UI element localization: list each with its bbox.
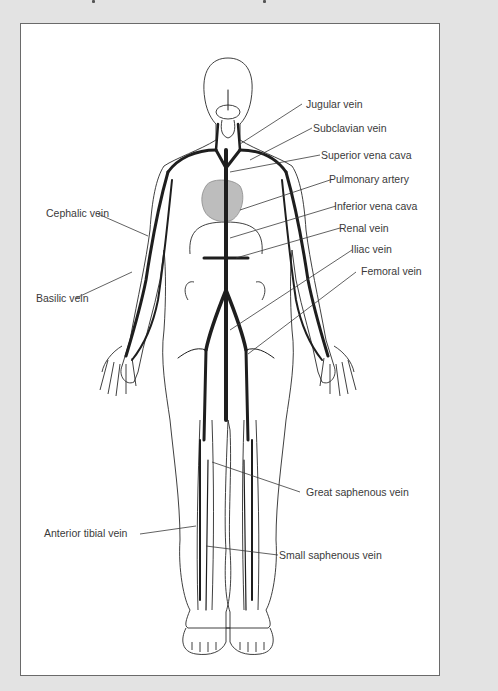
heart-shape xyxy=(202,180,243,222)
label-renal-vein: Renal vein xyxy=(339,222,389,234)
label-great-saphenous-vein: Great saphenous vein xyxy=(306,486,409,498)
label-femoral-vein: Femoral vein xyxy=(361,265,422,277)
label-anterior-tibial-vein: Anterior tibial vein xyxy=(44,527,127,539)
label-subclavian-vein: Subclavian vein xyxy=(313,122,387,134)
label-inferior-vena-cava: Inferior vena cava xyxy=(334,200,417,212)
label-iliac-vein: Iliac vein xyxy=(351,243,392,255)
label-jugular-vein: Jugular vein xyxy=(306,98,363,110)
label-pulmonary-artery: Pulmonary artery xyxy=(329,173,409,185)
label-cephalic-vein: Cephalic vein xyxy=(46,207,109,219)
label-superior-vena-cava: Superior vena cava xyxy=(321,149,411,161)
venous-system-illustration xyxy=(0,0,498,691)
label-small-saphenous-vein: Small saphenous vein xyxy=(279,549,382,561)
label-basilic-vein: Basilic vein xyxy=(36,292,89,304)
